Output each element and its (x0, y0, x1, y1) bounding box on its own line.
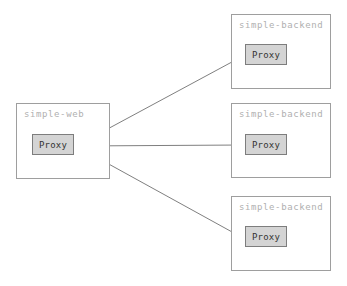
container-simple-web-label: simple-web (24, 109, 84, 120)
node-backend-proxy-1-label: Proxy (252, 50, 280, 60)
node-backend-proxy-2-label: Proxy (252, 140, 280, 150)
topology-diagram: simple-web Proxy simple-backend Proxy si… (0, 0, 347, 286)
container-simple-backend-3-label: simple-backend (239, 202, 323, 213)
node-web-proxy-label: Proxy (39, 140, 67, 150)
node-backend-proxy-1[interactable]: Proxy (245, 44, 287, 65)
node-backend-proxy-2[interactable]: Proxy (245, 134, 287, 155)
node-web-proxy[interactable]: Proxy (32, 134, 74, 155)
node-backend-proxy-3-label: Proxy (252, 232, 280, 242)
container-simple-backend-1-label: simple-backend (239, 20, 323, 31)
node-backend-proxy-3[interactable]: Proxy (245, 226, 287, 247)
container-simple-backend-2-label: simple-backend (239, 109, 323, 120)
